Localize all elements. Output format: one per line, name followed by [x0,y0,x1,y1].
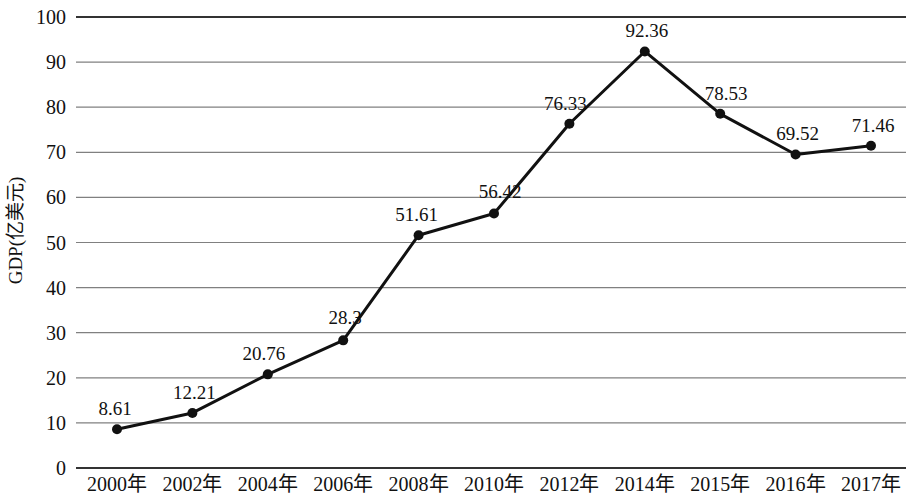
data-point-label: 92.36 [625,21,668,40]
data-point [414,230,424,240]
y-tick-label: 90 [18,52,66,72]
data-point [866,141,876,151]
data-point-label: 76.33 [544,94,587,113]
x-tick-label: 2008年 [389,473,449,495]
data-point-label: 8.61 [98,399,131,418]
x-axis-tick-labels: 2000年2002年2004年2006年2008年2010年2012年2014年… [0,473,906,503]
data-point [640,46,650,56]
data-point [489,209,499,219]
data-point [791,149,801,159]
data-point [112,424,122,434]
y-tick-label: 60 [18,187,66,207]
y-tick-label: 40 [18,278,66,298]
x-tick-label: 2000年 [87,473,147,495]
data-point-label: 51.61 [395,205,438,224]
x-tick-label: 2014年 [615,473,675,495]
data-point-label: 12.21 [173,383,216,402]
y-tick-label: 10 [18,413,66,433]
data-point-label: 20.76 [242,344,285,363]
x-tick-label: 2010年 [464,473,524,495]
data-point [715,109,725,119]
y-tick-label: 50 [18,233,66,253]
x-tick-label: 2015年 [690,473,750,495]
data-point [187,408,197,418]
data-markers [112,46,876,434]
y-tick-label: 80 [18,97,66,117]
y-axis-tick-labels: 0102030405060708090100 [18,0,66,503]
x-tick-label: 2012年 [539,473,599,495]
data-line [117,51,871,429]
data-point-label: 69.52 [776,124,819,143]
data-point-label: 78.53 [705,84,748,103]
data-point [338,335,348,345]
chart-svg [76,0,906,503]
x-tick-label: 2004年 [238,473,298,495]
x-tick-label: 2006年 [313,473,373,495]
x-tick-label: 2002年 [162,473,222,495]
y-tick-label: 30 [18,323,66,343]
y-tick-label: 70 [18,142,66,162]
y-tick-label: 100 [18,7,66,27]
gdp-line-chart: GDP(亿美元) 0102030405060708090100 8.6112.2… [0,0,906,503]
data-point [263,369,273,379]
plot-area [76,0,906,503]
x-tick-label: 2017年 [841,473,901,495]
data-point-label: 71.46 [852,116,895,135]
data-point-label: 28.3 [329,308,362,327]
data-point [564,119,574,129]
data-point-label: 56.42 [479,182,522,201]
x-tick-label: 2016年 [766,473,826,495]
y-tick-label: 20 [18,368,66,388]
